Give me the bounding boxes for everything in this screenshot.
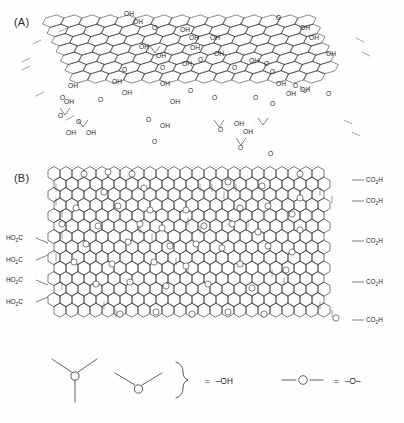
- svg-text:HO2C: HO2C: [6, 234, 23, 243]
- carbonyl-o-label: O: [276, 14, 281, 21]
- panel-b-label: (B): [14, 172, 29, 184]
- oh-label: OH: [189, 34, 199, 41]
- carboxyl-right: CO2H: [366, 316, 383, 325]
- panel-b: (B): [0, 162, 404, 340]
- carboxyl-left: HO2C: [6, 234, 23, 243]
- legend-meaning-ether: –O–: [345, 377, 361, 386]
- epoxide-o-label: O: [232, 64, 237, 71]
- epoxide-o-label: O: [160, 64, 165, 71]
- carbonyl-o-label: O: [238, 144, 243, 151]
- oh-label: OH: [180, 26, 190, 33]
- oh-label: OH: [160, 122, 170, 129]
- carboxyl-left: HO2C: [6, 276, 23, 285]
- oh-label: OH: [234, 120, 244, 127]
- svg-text:HO2C: HO2C: [6, 298, 23, 307]
- oh-label: OH: [86, 129, 96, 136]
- carboxyl-left: HO2C: [6, 298, 23, 307]
- oh-label: OH: [286, 90, 296, 97]
- svg-text:HO2C: HO2C: [6, 276, 23, 285]
- oh-label: OH: [170, 98, 180, 105]
- oh-label: OH: [243, 128, 253, 135]
- oh-label: OH: [300, 86, 310, 93]
- legend: = –OH = –O–: [0, 340, 404, 423]
- figure-root: (A): [0, 0, 404, 423]
- epoxide-o-label: O: [76, 118, 81, 125]
- epoxide-o-label: O: [270, 100, 275, 107]
- legend-graphics: = –OH = –O–: [0, 340, 404, 423]
- oh-label: OH: [214, 50, 224, 57]
- epoxide-o-label: O: [60, 94, 65, 101]
- epoxide-o-label: O: [253, 94, 258, 101]
- epoxide-o-label: O: [188, 87, 193, 94]
- epoxide-o-label: O: [326, 90, 331, 97]
- svg-text:CO2H: CO2H: [366, 237, 383, 246]
- carboxyl-left: HO2C: [6, 256, 23, 265]
- panel-a: (A): [0, 0, 404, 165]
- legend-equals-2: =: [334, 377, 339, 386]
- oh-label: OH: [139, 43, 149, 50]
- epoxide-o-label: O: [198, 56, 203, 63]
- linear-o-symbol: [282, 376, 323, 385]
- svg-text:CO2H: CO2H: [366, 278, 383, 287]
- legend-equals-1: =: [205, 377, 210, 386]
- carboxyl-right: CO2H: [366, 237, 383, 246]
- epoxide-o-label: O: [268, 150, 273, 157]
- oh-label: OH: [160, 80, 170, 87]
- carboxyl-right: CO2H: [366, 197, 383, 206]
- panel-a-label: (A): [14, 16, 29, 28]
- svg-text:CO2H: CO2H: [366, 316, 383, 325]
- epoxide-o-label: O: [146, 116, 151, 123]
- oh-label: OH: [68, 82, 78, 89]
- svg-text:CO2H: CO2H: [366, 176, 383, 185]
- carboxyl-right: CO2H: [366, 278, 383, 287]
- epoxide-o-label: O: [293, 82, 298, 89]
- panel-b-ether-symbols: [59, 169, 339, 321]
- epoxide-o-label: O: [218, 126, 223, 133]
- legend-brace: [176, 362, 188, 398]
- oh-label: OH: [66, 129, 76, 136]
- oh-label: OH: [249, 57, 259, 64]
- panel-b-structure: HO2C HO2C HO2C HO2C: [0, 162, 404, 340]
- epoxide-o-label: O: [58, 112, 63, 119]
- oh-label: OH: [156, 52, 166, 59]
- panel-b-right-carboxyls: CO2H CO2H CO2H CO2H: [352, 176, 383, 325]
- oh-label: OH: [64, 98, 74, 105]
- tripod-o-symbol: [52, 359, 97, 402]
- legend-meaning-hydroxyl: –OH: [216, 377, 233, 386]
- bent-o-symbol: [115, 373, 162, 393]
- oh-label: OH: [309, 34, 319, 41]
- carbonyl-o-label: O: [152, 24, 157, 31]
- epoxide-o-label: O: [122, 66, 127, 73]
- oh-label: OH: [190, 44, 200, 51]
- epoxide-o-label: O: [264, 60, 269, 67]
- oh-label: OH: [122, 89, 132, 96]
- oh-label: OH: [276, 80, 286, 87]
- epoxide-o-label: O: [270, 68, 275, 75]
- svg-text:HO2C: HO2C: [6, 256, 23, 265]
- oh-label: OH: [182, 60, 192, 67]
- oh-label: OH: [300, 24, 310, 31]
- carbonyl-o-label: O: [152, 138, 157, 145]
- carboxyl-right: CO2H: [366, 176, 383, 185]
- panel-b-left-carboxyls: HO2C HO2C HO2C HO2C: [6, 234, 48, 307]
- oh-label: OH: [124, 10, 134, 17]
- oh-label: OH: [112, 78, 122, 85]
- epoxide-o-label: O: [98, 96, 103, 103]
- oh-label: OH: [210, 34, 220, 41]
- panel-a-structure: OH OH OH OH OH OH OH OH OH OH OH OH OH O…: [0, 0, 404, 165]
- oh-label: OH: [133, 18, 143, 25]
- oh-label: OH: [326, 50, 336, 57]
- svg-text:CO2H: CO2H: [366, 197, 383, 206]
- epoxide-o-label: O: [212, 94, 217, 101]
- panel-a-hydroxyl-labels: OH OH OH OH OH OH OH OH OH OH OH OH OH O…: [64, 10, 336, 136]
